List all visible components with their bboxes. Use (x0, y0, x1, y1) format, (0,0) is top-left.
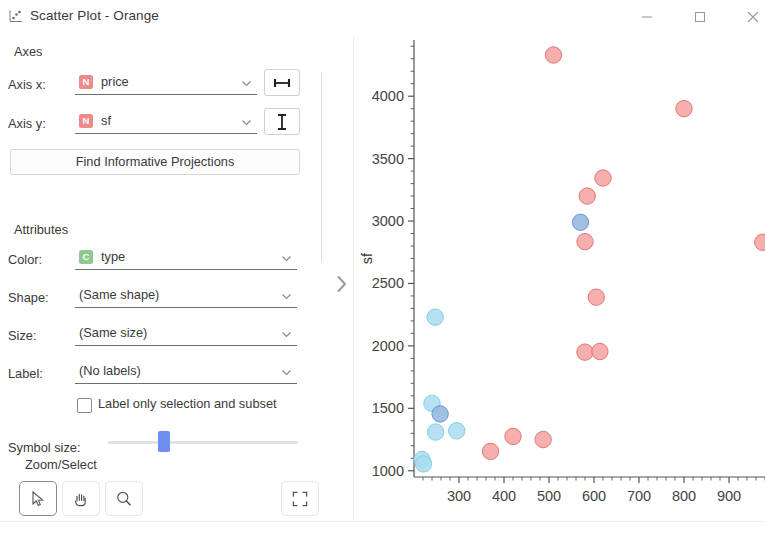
axis-x-label: Axis x: (8, 77, 46, 92)
numeric-type-icon: N (79, 75, 93, 89)
y-tick-label: 1500 (372, 400, 404, 416)
data-point[interactable] (572, 214, 588, 230)
horizontal-axis-icon (272, 76, 292, 90)
data-point[interactable] (588, 289, 604, 305)
color-value: type (101, 249, 125, 264)
x-tick-label: 500 (537, 488, 561, 504)
label-label: Label: (8, 366, 43, 381)
status-bar: 22 | - | - - | 22 | 2 (0, 522, 765, 560)
axis-y-combo[interactable]: N sf (75, 110, 257, 134)
y-tick-label: 3000 (372, 213, 404, 229)
axis-y-value: sf (101, 113, 111, 128)
y-axis-label: sf (359, 252, 375, 264)
select-tool-button[interactable] (19, 481, 57, 516)
size-label: Size: (8, 328, 36, 343)
scatterplot-icon (8, 8, 24, 24)
shape-label: Shape: (8, 290, 49, 305)
data-point[interactable] (755, 234, 765, 250)
data-point[interactable] (579, 188, 595, 204)
axes-group-title: Axes (14, 44, 42, 59)
close-button[interactable] (731, 4, 765, 30)
shape-value: (Same shape) (79, 287, 159, 302)
data-point[interactable] (595, 170, 611, 186)
x-tick-label: 700 (627, 488, 651, 504)
pan-tool-button[interactable] (62, 481, 100, 516)
window-title: Scatter Plot - Orange (30, 8, 159, 23)
chevron-down-icon (280, 289, 293, 302)
label-only-selection-text: Label only selection and subset (98, 396, 277, 411)
y-tick-label: 4000 (372, 88, 404, 104)
data-point[interactable] (505, 428, 521, 444)
find-informative-projections-button[interactable]: Find Informative Projections (10, 149, 300, 175)
scatter-plot-window: Scatter Plot - Orange Axes Axis x: N pri… (0, 0, 765, 560)
data-points[interactable] (414, 47, 765, 472)
size-combo[interactable]: (Same size) (75, 322, 297, 346)
minimize-button[interactable] (625, 4, 669, 30)
data-point[interactable] (577, 233, 593, 249)
symbol-size-slider-track[interactable] (108, 441, 298, 444)
size-value: (Same size) (79, 325, 147, 340)
x-tick-label: 400 (492, 488, 516, 504)
hand-icon (72, 490, 90, 508)
axis-x-combo[interactable]: N price (75, 71, 257, 95)
data-point[interactable] (427, 309, 443, 325)
numeric-type-icon: N (79, 114, 93, 128)
data-point[interactable] (432, 406, 448, 422)
maximize-button[interactable] (678, 4, 722, 30)
zoom-tool-button[interactable] (105, 481, 143, 516)
label-combo[interactable]: (No labels) (75, 360, 297, 384)
label-value: (No labels) (79, 363, 141, 378)
zoom-select-group-title: Zoom/Select (22, 457, 100, 472)
data-point[interactable] (676, 100, 692, 116)
panel-splitter[interactable] (330, 32, 354, 522)
chevron-down-icon (240, 76, 253, 89)
data-point[interactable] (545, 47, 561, 63)
chevron-down-icon (240, 115, 253, 128)
axis-y-orientation-button[interactable] (264, 108, 300, 135)
title-bar: Scatter Plot - Orange (0, 0, 765, 32)
attributes-group-title: Attributes (14, 222, 68, 237)
panel-divider (321, 72, 322, 262)
reset-zoom-button[interactable] (281, 481, 319, 516)
data-point[interactable] (482, 443, 498, 459)
categorical-type-icon: C (79, 250, 93, 264)
x-tick-label: 900 (717, 488, 741, 504)
x-tick-label: 600 (582, 488, 606, 504)
shape-combo[interactable]: (Same shape) (75, 284, 297, 308)
data-point[interactable] (592, 343, 608, 359)
scatter-plot-canvas[interactable]: 1000150020002500300035004000300400500600… (354, 32, 765, 522)
x-tick-label: 800 (672, 488, 696, 504)
chevron-down-icon (280, 327, 293, 340)
y-tick-label: 2500 (372, 275, 404, 291)
axis-x-orientation-button[interactable] (264, 69, 300, 96)
data-point[interactable] (535, 431, 551, 447)
scatter-plot-area[interactable]: 1000150020002500300035004000300400500600… (354, 32, 765, 522)
data-point[interactable] (415, 456, 431, 472)
magnifier-icon (115, 490, 133, 508)
expand-corners-icon (291, 490, 309, 508)
data-point[interactable] (577, 344, 593, 360)
data-point[interactable] (427, 424, 443, 440)
color-label: Color: (8, 252, 42, 267)
cursor-arrow-icon (29, 490, 47, 508)
data-point[interactable] (449, 423, 465, 439)
y-tick-label: 1000 (372, 463, 404, 479)
vertical-axis-icon (275, 113, 289, 131)
y-tick-label: 2000 (372, 338, 404, 354)
symbol-size-slider-handle[interactable] (158, 431, 170, 452)
checkbox-icon (77, 398, 92, 413)
chevron-down-icon (280, 251, 293, 264)
chevron-right-icon (334, 274, 350, 294)
control-panel: Axes Axis x: N price Axis y: N sf (0, 32, 330, 522)
chevron-down-icon (280, 365, 293, 378)
axis-x-value: price (101, 74, 129, 89)
axis-y-label: Axis y: (8, 116, 46, 131)
symbol-size-label: Symbol size: (8, 440, 81, 455)
x-tick-label: 300 (447, 488, 471, 504)
y-tick-label: 3500 (372, 151, 404, 167)
color-combo[interactable]: C type (75, 246, 297, 270)
